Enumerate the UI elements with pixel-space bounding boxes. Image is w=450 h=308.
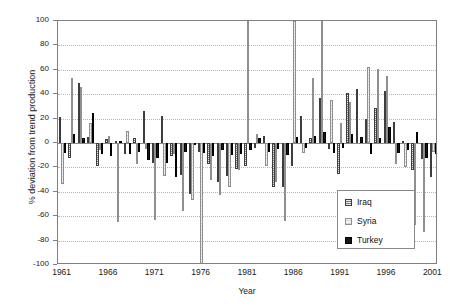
bar-iraq-1968	[124, 143, 126, 154]
bar-syria-1986	[293, 21, 295, 143]
bar-turkey-1992	[351, 134, 353, 143]
bar-syria-1963	[80, 87, 82, 143]
x-tick-label: 1981	[227, 268, 267, 277]
bar-turkey-1983	[268, 143, 270, 152]
bar-turkey-1977	[212, 143, 214, 156]
bar-turkey-1987	[305, 143, 307, 148]
bar-syria-1974	[182, 143, 184, 211]
y-tick-label: 80	[3, 40, 49, 48]
bar-turkey-1991	[342, 143, 344, 148]
bar-turkey-1998	[407, 143, 409, 150]
bar-turkey-1963	[82, 138, 84, 143]
bar-iraq-1990	[328, 143, 330, 149]
bar-iraq-1993	[356, 89, 358, 143]
y-tick-label: -60	[3, 211, 49, 219]
bar-turkey-1970	[147, 143, 149, 160]
bar-turkey-1982	[258, 138, 260, 143]
bar-turkey-1961	[64, 143, 66, 153]
bar-syria-1966	[108, 136, 110, 143]
bar-syria-1988	[312, 78, 314, 143]
bar-turkey-1965	[101, 143, 103, 154]
bar-turkey-1985	[286, 143, 288, 155]
legend-swatch-turkey	[345, 237, 352, 244]
bar-turkey-1994	[370, 143, 372, 154]
bar-turkey-1975	[194, 143, 196, 145]
y-tick-label: 100	[3, 16, 49, 24]
bar-syria-1967	[117, 143, 119, 222]
bar-turkey-1996	[388, 127, 390, 143]
bar-turkey-1981	[249, 143, 251, 150]
bar-turkey-1976	[203, 143, 205, 153]
legend-swatch-iraq	[345, 199, 352, 206]
legend-swatch-syria	[345, 218, 352, 225]
x-tick-label: 2001	[412, 268, 450, 277]
bar-iraq-1986	[291, 143, 293, 166]
bar-iraq-1961	[59, 117, 61, 143]
bar-turkey-1986	[296, 137, 298, 143]
bar-syria-1994	[367, 67, 369, 143]
bar-turkey-1967	[119, 141, 121, 143]
bar-turkey-1973	[175, 143, 177, 177]
y-tick-label: -20	[3, 162, 49, 170]
bar-iraq-1970	[143, 111, 145, 143]
bar-turkey-1993	[360, 137, 362, 143]
y-tick-label: -80	[3, 236, 49, 244]
bar-turkey-1999	[416, 132, 418, 143]
x-tick-label: 1976	[181, 268, 221, 277]
bar-syria-1976	[200, 143, 202, 264]
y-tick-label: 40	[3, 89, 49, 97]
bar-syria-1990	[330, 100, 332, 143]
bar-turkey-1984	[277, 143, 279, 149]
bar-turkey-1969	[138, 143, 140, 152]
legend-label-syria: Syria	[357, 217, 376, 226]
bar-turkey-1972	[166, 143, 168, 163]
bar-syria-1995	[377, 69, 379, 143]
y-tick-label: -100	[3, 260, 49, 268]
bar-syria-1975	[191, 143, 193, 200]
y-tick-mark	[53, 264, 57, 265]
bar-turkey-1995	[379, 138, 381, 143]
bar-iraq-1983	[263, 136, 265, 143]
bar-turkey-2000	[425, 143, 427, 158]
bar-iraq-1991	[337, 143, 339, 174]
bar-iraq-1997	[393, 122, 395, 143]
y-tick-label: -40	[3, 187, 49, 195]
x-axis-title: Year	[57, 286, 437, 296]
bar-turkey-1962	[73, 134, 75, 143]
bar-turkey-1979	[231, 143, 233, 155]
bar-syria-1989	[321, 21, 323, 143]
bar-turkey-1989	[323, 132, 325, 143]
bar-syria-1991	[340, 123, 342, 143]
bar-turkey-1971	[156, 143, 158, 158]
legend-item-iraq: Iraq	[345, 196, 372, 208]
bar-turkey-1980	[240, 143, 242, 154]
chart-container: % deviation from trend production 100806…	[0, 0, 450, 308]
bar-iraq-1987	[300, 116, 302, 143]
bar-turkey-1968	[129, 143, 131, 154]
bar-turkey-1966	[110, 143, 112, 156]
legend-item-turkey: Turkey	[345, 234, 383, 246]
x-tick-label: 1986	[273, 268, 313, 277]
x-tick-label: 1996	[366, 268, 406, 277]
bar-turkey-1978	[221, 143, 223, 150]
bar-turkey-1988	[314, 136, 316, 143]
x-tick-label: 1971	[134, 268, 174, 277]
bar-turkey-1997	[397, 143, 399, 153]
bar-syria-1978	[219, 143, 221, 195]
bar-syria-1968	[126, 131, 128, 143]
y-tick-label: 0	[3, 138, 49, 146]
chart-legend: Iraq Syria Turkey	[337, 190, 415, 249]
bar-iraq-1981	[244, 143, 246, 166]
y-tick-label: 60	[3, 65, 49, 73]
legend-label-turkey: Turkey	[357, 236, 383, 245]
bar-syria-1962	[71, 78, 73, 143]
bar-turkey-1964	[92, 113, 94, 144]
y-tick-label: 20	[3, 114, 49, 122]
bar-syria-1981	[247, 21, 249, 143]
bar-iraq-1982	[254, 143, 256, 148]
bar-iraq-1972	[161, 116, 163, 143]
x-tick-label: 1991	[320, 268, 360, 277]
legend-item-syria: Syria	[345, 215, 376, 227]
bar-turkey-1974	[184, 143, 186, 152]
bar-iraq-1962	[68, 143, 70, 158]
